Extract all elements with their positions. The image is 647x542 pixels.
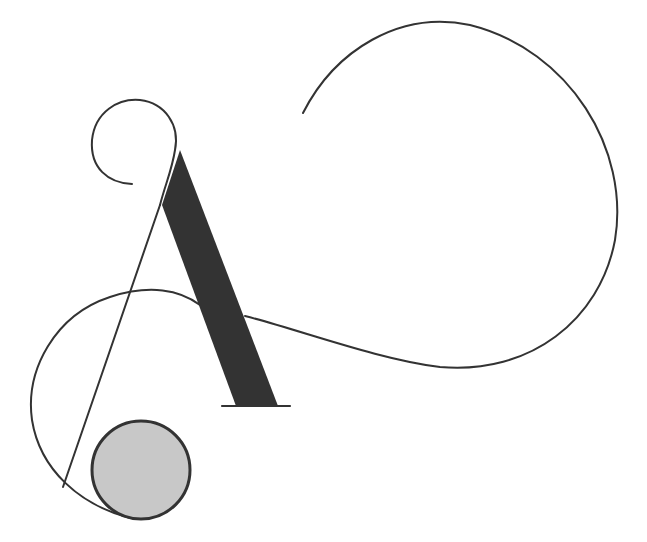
grey-circle — [92, 421, 190, 519]
thick-diagonal-stroke — [162, 150, 278, 406]
ornamental-letter-a — [0, 0, 647, 542]
top-curl-stroke — [92, 100, 176, 205]
crossbar-swash-stroke — [245, 22, 617, 368]
